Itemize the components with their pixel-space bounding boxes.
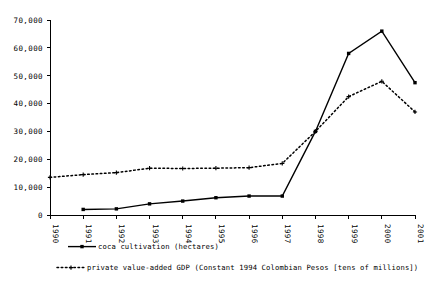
- x-tick-label: 1994: [184, 224, 193, 244]
- legend-marker-sample: [69, 266, 73, 270]
- x-axis: 1990199119921993199419951996199719981999…: [50, 215, 425, 244]
- data-point-marker: [81, 173, 85, 177]
- x-tick-label: 1993: [151, 224, 160, 244]
- x-tick-label: 1996: [250, 224, 259, 244]
- y-tick-label: 0: [38, 211, 43, 220]
- y-tick-label: 50,000: [14, 72, 44, 81]
- x-axis-tick-labels: 1990199119921993199419951996199719981999…: [51, 224, 425, 244]
- x-tick-label: 2000: [383, 224, 392, 244]
- data-point-marker: [380, 29, 383, 32]
- y-tick-label: 60,000: [14, 44, 44, 53]
- y-tick-label: 40,000: [14, 99, 44, 108]
- data-point-marker: [148, 202, 151, 205]
- x-tick-label: 1999: [350, 224, 359, 244]
- data-point-marker: [81, 208, 84, 211]
- data-series-layer: [48, 29, 417, 211]
- series-coca-cultivation: [81, 29, 416, 211]
- y-tick-label: 10,000: [14, 183, 44, 192]
- data-point-marker: [281, 194, 284, 197]
- legend-marker-sample: [80, 245, 83, 248]
- legend-label: coca cultivation (hectares): [98, 242, 219, 251]
- line-chart: 010,00020,00030,00040,00050,00060,00070,…: [0, 0, 432, 282]
- x-tick-label: 1992: [117, 224, 126, 244]
- x-axis-ticks: [50, 215, 415, 219]
- x-tick-label: 1997: [283, 224, 292, 244]
- x-tick-label: 1998: [316, 224, 325, 244]
- data-point-marker: [413, 81, 416, 84]
- legend-label: private value-added GDP (Constant 1994 C…: [87, 263, 418, 272]
- data-point-marker: [114, 171, 118, 175]
- data-point-marker: [214, 166, 218, 170]
- data-point-marker: [147, 166, 151, 170]
- x-tick-label: 2001: [416, 224, 425, 244]
- x-tick-label: 1990: [51, 224, 60, 244]
- y-axis-tick-labels: 010,00020,00030,00040,00050,00060,00070,…: [14, 16, 44, 220]
- y-axis: 010,00020,00030,00040,00050,00060,00070,…: [14, 16, 51, 220]
- data-point-marker: [48, 175, 52, 179]
- data-point-marker: [115, 207, 118, 210]
- chart-container: 010,00020,00030,00040,00050,00060,00070,…: [0, 0, 432, 282]
- data-point-marker: [247, 166, 251, 170]
- data-point-marker: [347, 52, 350, 55]
- x-tick-label: 1995: [217, 224, 226, 244]
- x-tick-label: 1991: [84, 224, 93, 244]
- data-point-marker: [181, 199, 184, 202]
- data-point-marker: [181, 166, 185, 170]
- data-point-marker: [214, 196, 217, 199]
- y-tick-label: 20,000: [14, 155, 44, 164]
- series-line: [83, 31, 415, 209]
- chart-legend: coca cultivation (hectares)private value…: [57, 242, 418, 272]
- data-point-marker: [247, 194, 250, 197]
- series-private-gdp: [48, 79, 417, 179]
- y-tick-label: 70,000: [14, 16, 44, 25]
- legend-item-private-gdp: private value-added GDP (Constant 1994 C…: [57, 263, 418, 272]
- y-tick-label: 30,000: [14, 127, 44, 136]
- series-line: [50, 81, 415, 177]
